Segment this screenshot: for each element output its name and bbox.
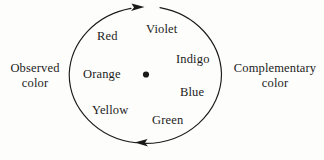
observed-color-caption: Observed color [2,61,68,91]
center-dot [143,71,149,77]
color-label-yellow: Yellow [92,103,128,118]
color-wheel-diagram: Violet Indigo Blue Green Yellow Orange R… [0,0,324,160]
color-label-green: Green [152,113,183,128]
complementary-color-caption: Complementary color [228,61,322,91]
bottom-arrow-icon [135,139,149,146]
color-label-blue: Blue [180,85,204,100]
top-arrow-icon [131,4,145,11]
observed-color-caption-line2: color [2,76,68,91]
complementary-color-caption-line2: color [228,76,322,91]
color-label-red: Red [97,29,118,44]
observed-color-caption-line1: Observed [2,61,68,76]
color-label-indigo: Indigo [176,52,210,67]
color-label-violet: Violet [146,22,177,37]
complementary-color-caption-line1: Complementary [228,61,322,76]
color-label-orange: Orange [83,67,121,82]
